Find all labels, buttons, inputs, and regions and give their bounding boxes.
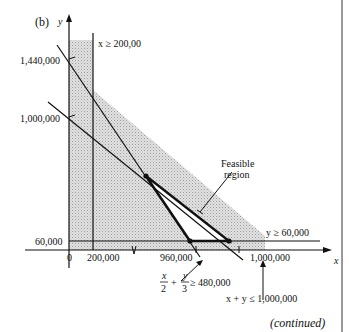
shaded-region bbox=[69, 40, 265, 250]
vertex-point bbox=[187, 238, 192, 243]
frac-y-num: y bbox=[182, 270, 188, 281]
y-axis-label: y bbox=[57, 16, 63, 27]
vertex-point bbox=[226, 238, 231, 243]
x-axis-label: x bbox=[333, 255, 339, 266]
origin-label: 0 bbox=[67, 252, 72, 263]
x-axis-arrow-icon bbox=[323, 247, 332, 253]
y-tick-label-60000: 60,000 bbox=[35, 236, 63, 247]
feasible-region-label-line2: region bbox=[224, 169, 250, 180]
panel-label: (b) bbox=[35, 15, 49, 29]
frac-x-num: x bbox=[161, 270, 167, 281]
feasible-region-label-line1: Feasible bbox=[221, 158, 255, 169]
weighted-rhs: ≥ 480,000 bbox=[190, 277, 231, 288]
y-tick-label-1440000: 1,440,000 bbox=[20, 55, 60, 66]
frac-plus: + bbox=[171, 277, 177, 288]
vertex-point bbox=[143, 173, 148, 178]
y-tick-label-1000000: 1,000,000 bbox=[20, 113, 60, 124]
x-tick-label-200000: 200,000 bbox=[87, 252, 120, 263]
constraint-y-min-label: y ≥ 60,000 bbox=[266, 227, 309, 238]
x-tick-label-1000000: 1,000,000 bbox=[250, 252, 290, 263]
continued-label: (continued) bbox=[270, 316, 325, 330]
frac-x-den: 2 bbox=[161, 283, 166, 294]
constraint-x-min-label: x ≥ 200,00 bbox=[98, 38, 141, 49]
y-axis-arrow-icon bbox=[66, 14, 72, 22]
linear-programming-diagram: (b) y x 1,440,000 1,000,000 60,000 0 200… bbox=[0, 0, 349, 332]
x-tick-label-960000: 960,000 bbox=[160, 252, 193, 263]
frac-y-den: 3 bbox=[182, 283, 187, 294]
constraint-sum-max-label: x + y ≤ 1,000,000 bbox=[226, 293, 297, 304]
